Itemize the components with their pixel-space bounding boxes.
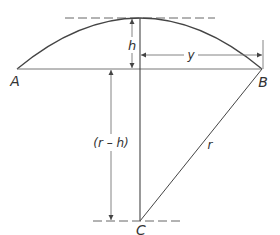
h-label: h <box>128 38 136 53</box>
r-minus-h-label: (r – h) <box>93 136 129 150</box>
y-label: y <box>186 48 195 62</box>
point-b-label: B <box>258 74 268 90</box>
point-a-label: A <box>9 73 20 89</box>
radius-line-bc <box>140 69 262 221</box>
circular-segment-diagram: h y (r – h) r A B C <box>0 0 280 235</box>
r-label: r <box>208 138 214 152</box>
point-c-label: C <box>136 222 146 235</box>
